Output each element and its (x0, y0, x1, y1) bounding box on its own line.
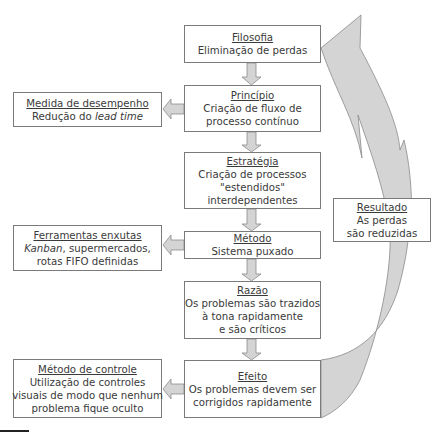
text-italic: lead time (95, 111, 143, 122)
box-text: As perdas (357, 214, 407, 227)
box-resultado: Resultado As perdas são reduzidas (333, 198, 431, 242)
box-title: Razão (237, 284, 268, 297)
box-metodo-controle: Método de controle Utilização de control… (13, 359, 162, 418)
left-arrow-icon (163, 99, 184, 119)
box-text: Os problemas devem ser (189, 383, 316, 396)
box-title: Princípio (231, 89, 274, 102)
box-title: Método de controle (38, 363, 137, 376)
box-text: Criação de processos (198, 168, 306, 181)
box-ferramentas-enxutas: Ferramentas enxutas Kanban, supermercado… (13, 225, 162, 271)
box-title: Filosofia (232, 31, 273, 44)
box-text: processo contínuo (206, 115, 299, 128)
box-text: rotas FIFO definidas (37, 255, 138, 268)
down-arrow-icon (242, 209, 261, 231)
left-arrow-icon (163, 235, 184, 255)
footer-rule (0, 430, 29, 432)
box-text: problema fique oculto (32, 402, 144, 415)
box-text: à tona rapidamente (202, 310, 303, 323)
box-text: "estendidos" (220, 181, 285, 194)
text-italic: Kanban (24, 243, 62, 254)
down-arrow-icon (242, 339, 261, 360)
box-text: Redução do lead time (32, 110, 143, 123)
box-text: visuais de modo que nenhum (12, 389, 163, 402)
box-text: Kanban, supermercados, (24, 242, 150, 255)
box-text: Eliminação de perdas (198, 44, 308, 57)
left-arrow-icon (163, 379, 184, 399)
box-medida-desempenho: Medida de desempenho Redução do lead tim… (13, 92, 162, 127)
box-text: e são críticos (219, 323, 286, 336)
box-estrategia: Estratégia Criação de processos "estendi… (184, 152, 321, 209)
box-text: são reduzidas (347, 227, 417, 240)
box-text: Criação de fluxo de (203, 102, 301, 115)
box-title: Medida de desempenho (26, 97, 148, 110)
box-principio: Princípio Criação de fluxo de processo c… (184, 85, 321, 132)
box-text: interdependentes (207, 194, 297, 207)
box-text: Utilização de controles (30, 376, 146, 389)
down-arrow-icon (242, 63, 261, 85)
box-text: Sistema puxado (211, 245, 293, 258)
box-title: Ferramentas enxutas (33, 229, 141, 242)
down-arrow-icon (242, 132, 261, 152)
box-filosofia: Filosofia Eliminação de perdas (184, 25, 321, 63)
box-title: Método (234, 232, 272, 245)
down-arrow-icon (242, 259, 261, 281)
box-title: Estratégia (227, 155, 279, 168)
box-efeito: Efeito Os problemas devem ser corrigidos… (184, 360, 321, 418)
box-title: Resultado (357, 201, 407, 214)
box-text: Os problemas são trazidos (185, 297, 320, 310)
box-text: corrigidos rapidamente (193, 396, 312, 409)
text-plain: Redução do (32, 111, 95, 122)
box-title: Efeito (238, 370, 267, 383)
text-plain: , supermercados, (62, 243, 150, 254)
box-razao: Razão Os problemas são trazidos à tona r… (184, 281, 321, 339)
box-metodo: Método Sistema puxado (184, 231, 321, 259)
